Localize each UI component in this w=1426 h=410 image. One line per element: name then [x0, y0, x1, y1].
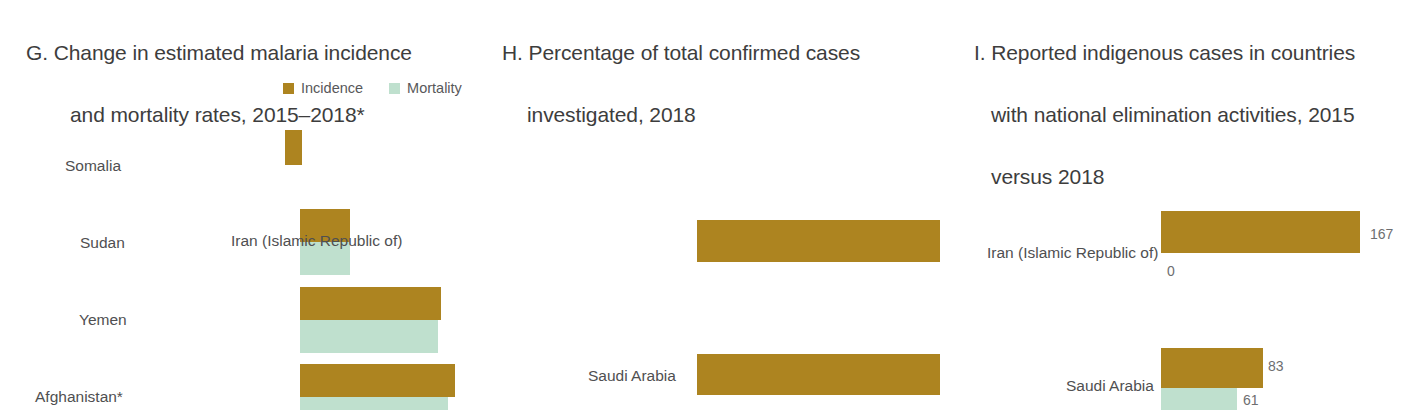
- panel-g-plot: SomaliaSudanYemenAfghanistan*: [0, 0, 480, 410]
- panel-i-bar-2015: [1161, 211, 1360, 253]
- panel-i-bar-2018: [1161, 388, 1237, 410]
- panel-i-indigenous-cases: I. Reported indigenous cases in countrie…: [960, 0, 1426, 410]
- panel-i-bar-2015: [1161, 348, 1263, 388]
- panel-h-cases-investigated: H. Percentage of total confirmed cases i…: [480, 0, 960, 410]
- panel-i-value-label-2018: 61: [1243, 392, 1259, 408]
- panel-h-bar-investigated: [697, 354, 940, 395]
- panel-g-category-label: Yemen: [79, 311, 127, 329]
- panel-g-bar-incidence: [300, 287, 441, 320]
- panel-i-category-label: Iran (Islamic Republic of): [987, 244, 1158, 262]
- panel-h-bar-investigated: [697, 220, 940, 262]
- panel-g-category-label: Somalia: [65, 157, 121, 175]
- panel-g-incidence-mortality-change: G. Change in estimated malaria incidence…: [0, 0, 480, 410]
- panel-g-bar-incidence: [285, 130, 302, 165]
- panel-g-bar-mortality: [300, 397, 448, 410]
- panel-h-plot: Iran (Islamic Republic of)Saudi Arabia: [480, 0, 960, 410]
- panel-i-value-label-2015: 167: [1370, 226, 1393, 242]
- panel-h-category-label: Iran (Islamic Republic of): [231, 232, 402, 250]
- panel-i-plot: Iran (Islamic Republic of)1670Saudi Arab…: [960, 0, 1426, 410]
- panel-g-bar-mortality: [300, 320, 438, 353]
- panel-i-value-label-2018: 0: [1167, 263, 1175, 279]
- panel-h-category-label: Saudi Arabia: [588, 367, 676, 385]
- panel-g-bar-incidence: [300, 364, 455, 397]
- panel-g-category-label: Sudan: [80, 234, 125, 252]
- panel-g-category-label: Afghanistan*: [35, 388, 123, 406]
- panel-i-category-label: Saudi Arabia: [1066, 377, 1154, 395]
- panel-i-value-label-2015: 83: [1268, 358, 1284, 374]
